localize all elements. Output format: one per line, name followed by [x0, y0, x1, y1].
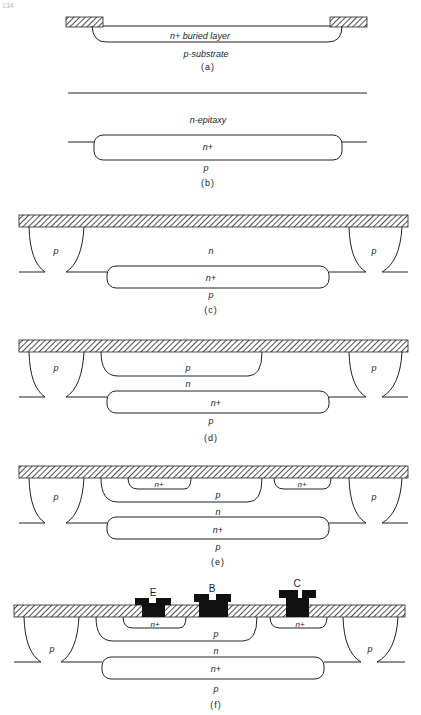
terminal-label-b: B: [209, 583, 216, 594]
base-region: [96, 617, 257, 641]
label-emitter: n+: [150, 620, 159, 629]
label-epi: n-epitaxy: [190, 115, 227, 125]
label-emitter: n+: [154, 480, 163, 489]
panel-a: n+ buried layer p-substrate (a): [66, 17, 367, 72]
oxide-block-left: [66, 17, 103, 27]
panel-e: p p n+ n+ p n n+ p (e): [19, 466, 408, 567]
label-base: p: [212, 629, 218, 639]
label-buried: n+: [213, 525, 223, 535]
terminal-label-c: C: [293, 578, 300, 589]
label-collector-contact: n+: [295, 620, 304, 629]
label-iso-left: p: [52, 492, 58, 502]
label-substrate: p-substrate: [182, 49, 228, 59]
buried-layer: [107, 266, 329, 288]
label-substrate: p: [207, 416, 213, 426]
caption-a: (a): [201, 62, 215, 72]
label-substrate: p: [212, 684, 218, 694]
base-region: [101, 352, 262, 376]
panel-f: E B C p p n+ n+ p n n+ p (f): [14, 578, 405, 710]
label-iso-left: p: [52, 246, 58, 256]
label-iso-right: p: [370, 363, 376, 373]
caption-f: (f): [210, 700, 222, 710]
buried-layer: [94, 135, 342, 160]
label-buried: n+: [211, 398, 221, 408]
label-base: p: [214, 490, 220, 500]
label-iso-left: p: [48, 644, 54, 654]
oxide-block-right: [330, 17, 367, 27]
label-buried: n+ buried layer: [170, 31, 231, 41]
label-buried: n+: [203, 142, 213, 152]
caption-b: (b): [201, 178, 215, 188]
label-iso-right: p: [370, 492, 376, 502]
label-buried: n+: [206, 273, 216, 283]
caption-e: (e): [211, 557, 225, 567]
caption-d: (d): [204, 433, 218, 443]
label-epi: n: [185, 379, 190, 389]
label-iso-right: p: [370, 246, 376, 256]
label-buried: n+: [211, 664, 221, 674]
label-substrate: p: [207, 290, 213, 300]
label-substrate: p: [214, 542, 220, 552]
panel-b: n-epitaxy n+ p (b): [68, 93, 367, 188]
oxide-layer: [19, 466, 408, 478]
fabrication-diagram: 134 n+ buried layer p-substrate (a) n-ep…: [0, 0, 421, 715]
label-iso-right: p: [366, 644, 372, 654]
oxide-layer: [19, 215, 408, 227]
base-contact-metal: [194, 594, 231, 617]
label-epi: n: [213, 646, 218, 656]
label-epi: n: [215, 507, 220, 517]
panel-c: p p n n+ p (c): [19, 215, 408, 315]
label-epi: n: [208, 246, 213, 256]
page-number: 134: [2, 2, 14, 9]
oxide-layer: [19, 340, 408, 352]
terminal-label-e: E: [150, 587, 157, 598]
panel-d: p p p n n+ p (d): [19, 340, 408, 443]
label-iso-left: p: [52, 363, 58, 373]
label-base: p: [184, 363, 190, 373]
label-substrate: p: [202, 163, 208, 173]
base-region: [101, 478, 262, 502]
label-collector-contact: n+: [297, 480, 306, 489]
caption-c: (c): [204, 305, 218, 315]
